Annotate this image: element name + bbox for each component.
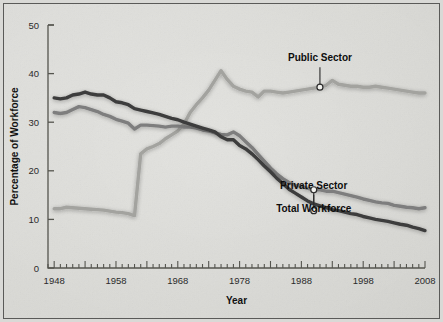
series-line bbox=[54, 107, 425, 209]
x-tick-label: 2008 bbox=[414, 275, 435, 286]
x-axis-title: Year bbox=[226, 295, 247, 306]
annotation-marker bbox=[311, 187, 317, 193]
x-tick-label: 1948 bbox=[44, 275, 65, 286]
x-tick-label: 1968 bbox=[167, 275, 188, 286]
axis-ticks bbox=[48, 25, 425, 268]
data-series bbox=[54, 71, 425, 231]
x-tick-label: 1978 bbox=[229, 275, 250, 286]
y-tick-label: 30 bbox=[28, 117, 39, 128]
series-annotations: Private SectorTotal WorkforcePublic Sect… bbox=[276, 52, 352, 214]
x-tick-label: 1958 bbox=[105, 275, 126, 286]
annotation-marker bbox=[317, 84, 323, 90]
annotation-label: Total Workforce bbox=[276, 203, 352, 214]
series-line bbox=[54, 71, 425, 216]
y-tick-label: 20 bbox=[28, 165, 39, 176]
y-axis-title: Percentage of Workforce bbox=[9, 87, 20, 206]
y-tick-label: 0 bbox=[34, 263, 39, 274]
y-tick-label: 40 bbox=[28, 68, 39, 79]
y-tick-label: 10 bbox=[28, 214, 39, 225]
x-tick-label: 1988 bbox=[291, 275, 312, 286]
chart-figure: 01020304050 1948195819681978198819982008… bbox=[0, 0, 443, 322]
plot-area: 01020304050 1948195819681978198819982008… bbox=[0, 0, 443, 322]
x-tick-label: 1998 bbox=[353, 275, 374, 286]
annotation-label: Public Sector bbox=[288, 52, 352, 63]
y-tick-label: 50 bbox=[28, 20, 39, 31]
axes bbox=[48, 25, 425, 268]
y-axis-tick-labels: 01020304050 bbox=[28, 20, 39, 274]
x-axis-tick-labels: 1948195819681978198819982008 bbox=[44, 275, 436, 286]
